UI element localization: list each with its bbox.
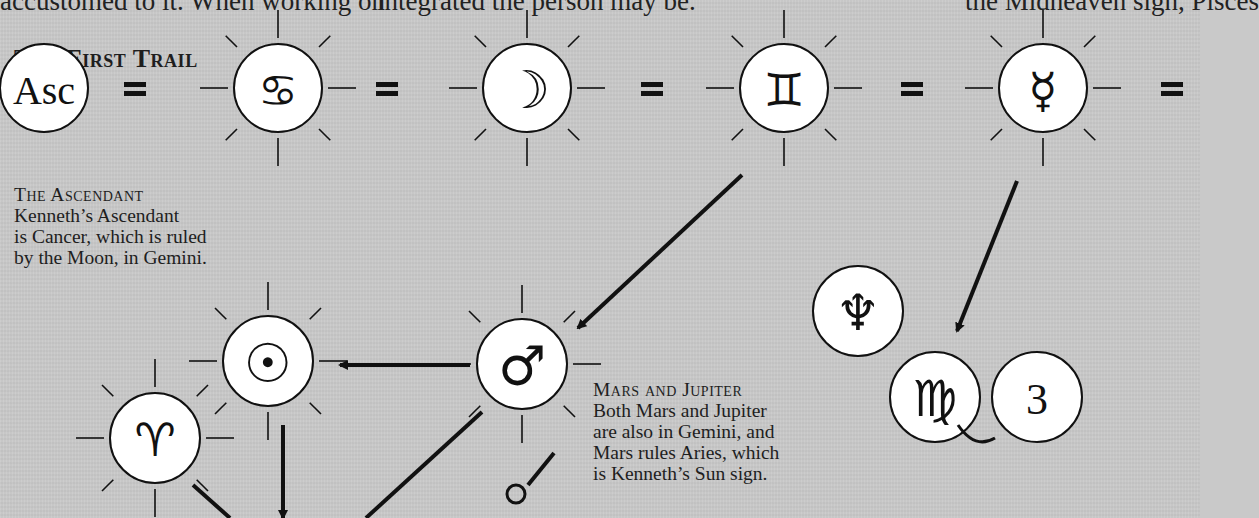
ray-line [1084,36,1095,47]
ray-line [732,129,743,140]
ray-line [732,36,743,47]
ray-line [319,36,330,47]
node-moon: ☽ [483,44,571,132]
arrows-group [283,175,1017,518]
sun-rays-group [76,10,1121,517]
ray-line [226,36,237,47]
sun-icon: ☉ [244,332,292,395]
ray-line [319,129,330,140]
ray-line [475,129,486,140]
ray-line [197,385,208,396]
neptune-icon: ♆ [836,284,881,342]
node-gemini: ♊ [740,44,828,132]
mars-icon: ♂ [498,335,546,398]
equals-sign-icon [124,82,146,96]
equals-sign-icon [376,82,398,96]
gemini-icon: ♊ [763,63,804,117]
jupiter-ring-icon [507,485,525,503]
ray-line [102,385,113,396]
mercury-icon: ☿ [1028,62,1057,118]
ray-line [825,129,836,140]
node-virgo: ♍ [890,352,980,442]
ray-line [310,308,321,319]
gemini-to-mars-arrow [578,175,742,328]
node-sun: ☉ [223,316,313,406]
ray-line [310,403,321,414]
mars-down-left-line [366,412,482,518]
aries-down-right-line [193,485,230,518]
ray-line [568,36,579,47]
ray-line [991,129,1002,140]
ray-line [991,36,1002,47]
node-aries: ♈ [110,393,200,483]
equals-sign-icon [641,82,663,96]
ray-line [102,480,113,491]
ray-line [564,311,575,322]
ascendant-text: Asc [13,68,75,113]
node-cancer: ♋ [234,44,322,132]
ray-line [825,36,836,47]
node-ascendant: Asc [0,44,88,132]
moon-icon: ☽ [504,60,551,120]
ray-line [568,129,579,140]
house-3-text: 3 [1026,375,1048,424]
node-house3: 3 [992,352,1082,442]
jupiter-stem-line [528,453,554,485]
ray-line [475,36,486,47]
ray-line [469,311,480,322]
cancer-icon: ♋ [258,65,297,116]
virgo-icon: ♍ [913,370,958,428]
equals-sign-icon [901,82,923,96]
node-mercury: ☿ [999,44,1087,132]
ray-line [215,403,226,414]
node-neptune: ♆ [813,266,903,356]
ray-line [226,129,237,140]
aries-icon: ♈ [134,413,175,467]
equals-sign-icon [1161,82,1183,96]
symbol-nodes-group: Asc♋☽♊☿☉♂♈♆♍3 [0,44,1087,483]
ray-line [564,406,575,417]
ray-line [215,308,226,319]
mercury-to-virgo-arrow [957,181,1017,331]
node-mars: ♂ [477,319,567,409]
ray-line [1084,129,1095,140]
connector-lines-group [193,412,554,518]
